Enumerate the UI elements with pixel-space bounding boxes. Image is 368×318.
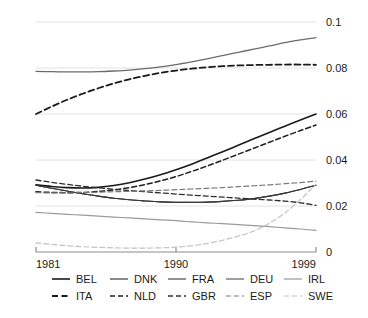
y-tick-label-0.02: 0.02 — [326, 200, 347, 212]
y-tick-label-0.06: 0.06 — [326, 108, 347, 120]
y-tick-label-0: 0 — [326, 246, 332, 258]
legend-label-swe[interactable]: SWE — [308, 290, 333, 302]
x-tick-label-1999: 1999 — [292, 258, 316, 270]
legend-label-dnk[interactable]: DNK — [134, 273, 158, 285]
chart-background — [0, 0, 368, 318]
y-tick-label-0.04: 0.04 — [326, 154, 347, 166]
line-chart: 00.020.040.060.080.1 198119901999 BELDNK… — [0, 0, 368, 318]
legend-label-esp[interactable]: ESP — [250, 290, 272, 302]
chart-canvas: 00.020.040.060.080.1 198119901999 BELDNK… — [0, 0, 368, 318]
x-tick-label-1981: 1981 — [36, 258, 60, 270]
y-tick-label-0.1: 0.1 — [326, 16, 341, 28]
legend-label-bel[interactable]: BEL — [76, 273, 97, 285]
legend-label-fra[interactable]: FRA — [192, 273, 215, 285]
legend-label-deu[interactable]: DEU — [250, 273, 273, 285]
legend-label-nld[interactable]: NLD — [134, 290, 156, 302]
legend-label-irl[interactable]: IRL — [308, 273, 325, 285]
y-tick-label-0.08: 0.08 — [326, 62, 347, 74]
x-tick-label-1990: 1990 — [164, 258, 188, 270]
legend-label-gbr[interactable]: GBR — [192, 290, 216, 302]
legend-label-ita[interactable]: ITA — [76, 290, 93, 302]
